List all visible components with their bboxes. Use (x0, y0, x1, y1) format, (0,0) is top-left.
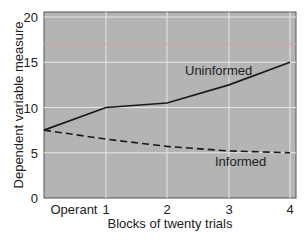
svg-text:3: 3 (225, 202, 232, 217)
series-label-informed: Informed (215, 154, 266, 169)
svg-text:0: 0 (31, 191, 38, 206)
svg-text:5: 5 (31, 146, 38, 161)
x-axis-label: Blocks of twenty trials (108, 216, 233, 231)
y-axis-label: Dependent variable measure (11, 22, 26, 189)
svg-text:1: 1 (102, 202, 109, 217)
chart: 05101520 Operant1234 Uninformed Informed… (0, 0, 306, 242)
svg-text:Operant: Operant (51, 202, 98, 217)
x-axis-ticks: Operant1234 (51, 202, 294, 217)
svg-text:4: 4 (286, 202, 293, 217)
plot-area (44, 12, 296, 198)
series-label-uninformed: Uninformed (185, 63, 252, 78)
svg-text:2: 2 (163, 202, 170, 217)
